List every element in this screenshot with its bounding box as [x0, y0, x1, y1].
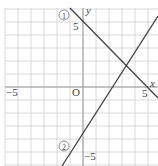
- line-2-marker: 2: [59, 141, 69, 152]
- origin-label: O: [72, 86, 80, 98]
- x-axis-label: x: [149, 77, 155, 89]
- y-tick-neg5: −5: [84, 150, 96, 162]
- line-1-marker: 1: [59, 10, 69, 21]
- coordinate-plane: −5 5 5 −5 O x y 1 2: [0, 0, 158, 166]
- x-tick-neg5: −5: [6, 86, 18, 98]
- x-tick-5: 5: [142, 87, 148, 99]
- y-tick-5: 5: [73, 20, 79, 32]
- line-2-label: 2: [62, 143, 66, 152]
- line-1-label: 1: [62, 12, 66, 21]
- y-axis-label: y: [85, 4, 91, 16]
